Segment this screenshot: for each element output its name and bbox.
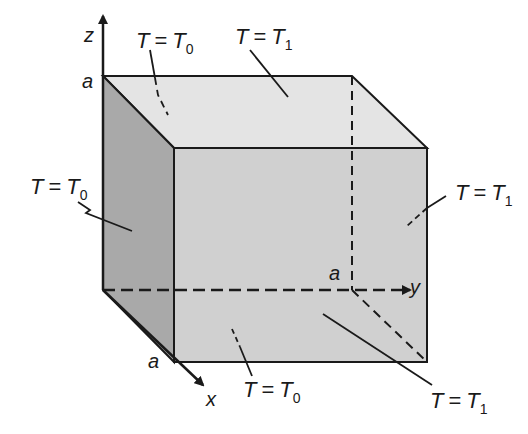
z-axis-label: z <box>83 24 94 46</box>
label-top-face: T=T1 <box>235 24 293 53</box>
label-bottom-face: T=T0 <box>243 377 301 406</box>
leader-right-outside <box>427 196 446 208</box>
label-left-face: T=T0 <box>30 174 88 203</box>
front-face <box>174 148 427 362</box>
label-front-lower-face: T=T1 <box>430 388 488 417</box>
y-axis-tick-a: a <box>329 262 340 284</box>
z-axis-tick-a: a <box>82 70 93 92</box>
cube-diagram: z a y a x a T=T0 T=T1 T=T0 T=T1 T=T0 T=T… <box>0 0 528 434</box>
x-axis-tick-a: a <box>148 350 159 372</box>
label-back-z-face: T=T0 <box>136 28 194 57</box>
leader-back-z <box>150 50 155 78</box>
y-axis-label: y <box>408 276 421 298</box>
x-axis-label: x <box>205 388 217 410</box>
label-right-face: T=T1 <box>455 180 513 209</box>
